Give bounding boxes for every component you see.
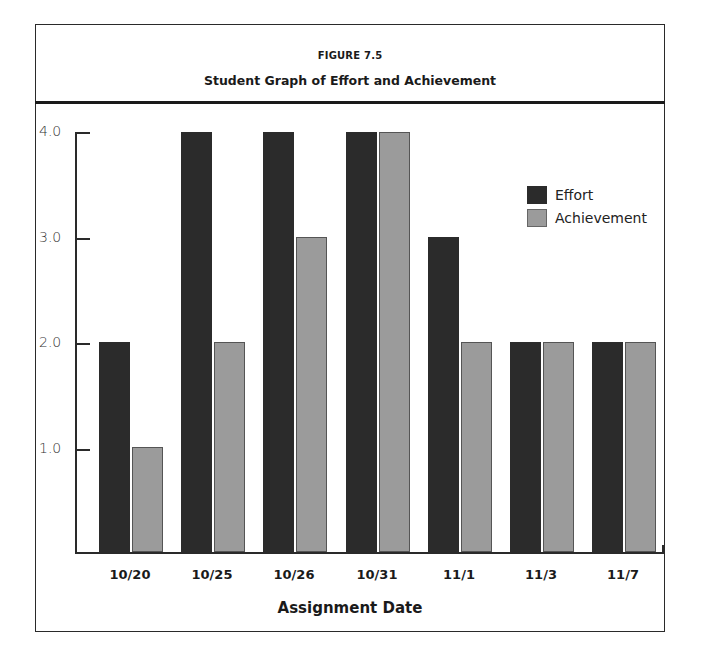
bar-achievement [296,237,327,552]
x-tick-label: 10/20 [95,567,165,582]
bar-achievement [461,342,492,552]
x-tick-label: 11/1 [424,567,494,582]
x-tick-label: 10/25 [177,567,247,582]
figure-title: Student Graph of Effort and Achievement [36,73,664,88]
x-tick-label: 10/26 [259,567,329,582]
x-tick-label: 10/31 [342,567,412,582]
x-tick-label: 11/3 [506,567,576,582]
figure-number: FIGURE 7.5 [36,50,664,61]
bar-effort [346,132,377,552]
figure-header: FIGURE 7.5 Student Graph of Effort and A… [36,25,664,103]
bar-effort [263,132,294,552]
legend-swatch-achievement [527,209,547,227]
bar-effort [99,342,130,552]
y-tick-3 [75,238,90,240]
legend-swatch-effort [527,186,547,204]
bar-achievement [543,342,574,552]
bar-achievement [214,342,245,552]
x-tick-label: 11/7 [588,567,658,582]
y-tick-1 [75,449,90,451]
bar-achievement [132,447,163,552]
bar-effort [428,237,459,552]
legend-item-achievement: Achievement [527,206,647,229]
x-axis-title: Assignment Date [35,599,665,617]
y-tick-label: 1.0 [39,440,69,456]
y-tick-label: 2.0 [39,334,69,350]
bar-effort [592,342,623,552]
bar-achievement [625,342,656,552]
legend-label-effort: Effort [555,187,593,203]
bar-effort [510,342,541,552]
y-tick-label: 3.0 [39,229,69,245]
bar-effort [181,132,212,552]
legend-label-achievement: Achievement [555,210,647,226]
bar-achievement [379,132,410,552]
x-axis [75,552,664,554]
y-tick-2 [75,343,90,345]
header-divider [35,101,665,104]
y-tick-4 [75,132,90,134]
legend: Effort Achievement [527,183,647,229]
x-axis-end-tick [662,545,664,553]
legend-item-effort: Effort [527,183,647,206]
y-tick-label: 4.0 [39,123,69,139]
